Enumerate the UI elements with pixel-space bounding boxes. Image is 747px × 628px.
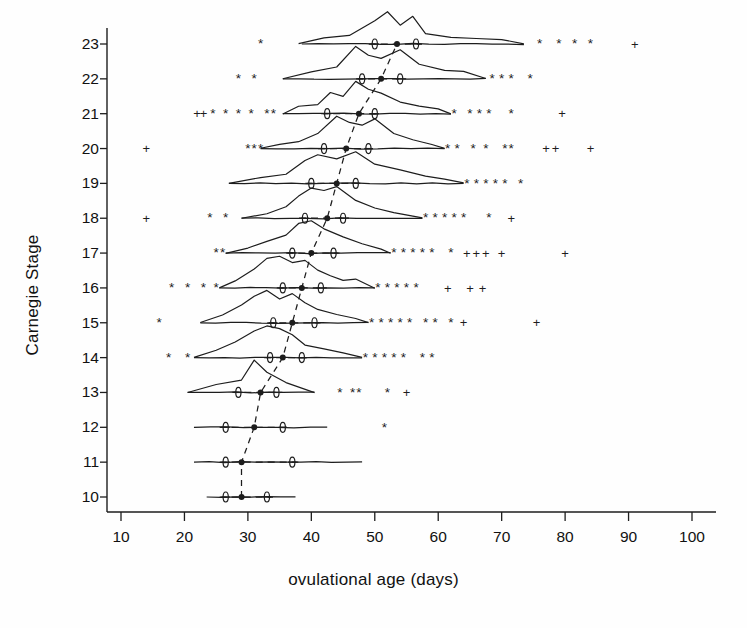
outlier-plus: +: [482, 246, 490, 261]
quartile-marker: [279, 283, 287, 293]
quartile-marker: [298, 353, 306, 363]
quartile-marker: [266, 353, 274, 363]
quartile-marker: [358, 74, 366, 84]
outlier-plus: +: [200, 106, 208, 121]
density-curve: [299, 12, 524, 44]
median-marker: [289, 320, 295, 326]
outlier-star: *: [483, 141, 489, 156]
outlier-star: *: [420, 245, 426, 260]
density-curve: [283, 81, 451, 114]
median-marker: [356, 111, 362, 117]
outlier-star: *: [223, 106, 229, 121]
y-tick-label: 15: [59, 314, 99, 332]
quartile-marker: [352, 178, 360, 188]
outlier-star: *: [245, 141, 251, 156]
stage-row: *****+: [258, 12, 639, 52]
density-curve: [283, 46, 486, 78]
y-tick-label: 22: [59, 70, 99, 88]
figure-container: *****+*****************+++*********++++*…: [0, 0, 747, 628]
density-curve: [229, 152, 464, 184]
outlier-star: *: [271, 106, 277, 121]
quartile-marker: [288, 457, 296, 467]
outlier-plus: +: [143, 211, 151, 226]
outlier-star: *: [509, 106, 515, 121]
quartile-marker: [339, 213, 347, 223]
outlier-star: *: [423, 210, 429, 225]
outlier-plus: +: [552, 141, 560, 156]
outlier-star: *: [372, 350, 378, 365]
outlier-star: *: [388, 315, 394, 330]
x-tick-label: 40: [303, 528, 320, 546]
quartile-marker: [221, 492, 229, 502]
outlier-star: *: [252, 71, 258, 86]
whisker-line: [226, 253, 391, 254]
y-tick-label: 11: [59, 453, 99, 471]
quartile-marker: [288, 248, 296, 258]
y-tick-label: 16: [59, 279, 99, 297]
stage-row: *********: [166, 326, 435, 365]
y-tick-label: 23: [59, 35, 99, 53]
outlier-star: *: [401, 350, 407, 365]
series-group: *****+*****************+++*********++++*…: [143, 12, 639, 502]
y-tick-label: 20: [59, 140, 99, 158]
outlier-star: *: [410, 245, 416, 260]
whisker-line: [194, 462, 362, 463]
quartile-marker: [221, 422, 229, 432]
quartile-marker: [310, 318, 318, 328]
outlier-star: *: [537, 36, 543, 51]
outlier-star: *: [588, 36, 594, 51]
outlier-star: *: [385, 280, 391, 295]
outlier-plus: +: [558, 106, 566, 121]
density-curve: [219, 256, 374, 288]
outlier-star: *: [382, 420, 388, 435]
outlier-plus: +: [466, 281, 474, 296]
outlier-star: *: [502, 176, 508, 191]
x-tick-label: 50: [366, 528, 383, 546]
outlier-star: *: [236, 71, 242, 86]
outlier-star: *: [477, 106, 483, 121]
y-tick-label: 19: [59, 174, 99, 192]
stage-row: *: [194, 420, 388, 435]
outlier-star: *: [236, 106, 242, 121]
outlier-star: *: [363, 350, 369, 365]
outlier-plus: +: [143, 141, 151, 156]
outlier-star: *: [483, 176, 489, 191]
stage-row: ******: [236, 46, 534, 86]
outlier-plus: +: [479, 281, 487, 296]
outlier-star: *: [470, 141, 476, 156]
outlier-star: *: [432, 210, 438, 225]
quartile-marker: [371, 109, 379, 119]
outlier-star: *: [451, 210, 457, 225]
outlier-star: *: [214, 245, 220, 260]
density-curve: [226, 221, 391, 254]
outlier-star: *: [404, 280, 410, 295]
outlier-star: *: [156, 315, 162, 330]
quartile-marker: [371, 39, 379, 49]
outlier-star: *: [169, 280, 175, 295]
axes-group: [100, 28, 716, 521]
outlier-plus: +: [463, 246, 471, 261]
x-tick-label: 90: [620, 528, 637, 546]
outlier-star: *: [486, 210, 492, 225]
outlier-star: *: [509, 141, 515, 156]
outlier-star: *: [493, 176, 499, 191]
outlier-star: *: [413, 280, 419, 295]
outlier-star: *: [391, 350, 397, 365]
outlier-star: *: [486, 106, 492, 121]
outlier-star: *: [337, 385, 343, 400]
whisker-line: [219, 287, 374, 288]
outlier-star: *: [264, 106, 270, 121]
outlier-star: *: [556, 36, 562, 51]
outlier-star: *: [502, 141, 508, 156]
outlier-star: *: [210, 106, 216, 121]
outlier-star: *: [509, 71, 515, 86]
quartile-marker: [323, 109, 331, 119]
outlier-star: *: [223, 210, 229, 225]
stage-row: ****+: [188, 360, 411, 400]
stage-row: ***********+++: [193, 81, 565, 121]
whisker-line: [283, 113, 451, 114]
quartile-marker: [263, 492, 271, 502]
stage-row: *********+++: [169, 256, 486, 295]
y-tick-label: 18: [59, 209, 99, 227]
outlier-star: *: [429, 245, 435, 260]
